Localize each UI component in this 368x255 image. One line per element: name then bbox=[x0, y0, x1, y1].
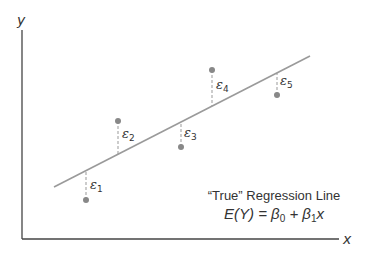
epsilon-label: ε5 bbox=[280, 73, 293, 90]
data-point-2: ε2 bbox=[115, 118, 135, 154]
observation-dot bbox=[274, 92, 280, 98]
beta1: β bbox=[301, 205, 311, 222]
epsilon-label: ε1 bbox=[90, 177, 103, 194]
y-axis-label: y bbox=[16, 12, 26, 28]
beta0: β bbox=[270, 205, 280, 222]
observation-dot bbox=[178, 144, 184, 150]
data-point-1: ε1 bbox=[83, 171, 103, 203]
data-point-4: ε4 bbox=[209, 67, 229, 106]
epsilon-label: ε3 bbox=[184, 125, 197, 142]
regression-diagram: y x ε1ε2ε3ε4ε5 “True” Regression Line E(… bbox=[0, 0, 368, 255]
regression-formula: E(Y) = β0 + β1x bbox=[224, 205, 325, 224]
epsilon-label: ε4 bbox=[216, 77, 229, 94]
regression-line bbox=[54, 56, 310, 187]
formula-lhs: E(Y) = bbox=[224, 205, 271, 222]
x-axis-label: x bbox=[342, 231, 352, 247]
observation-dot bbox=[83, 197, 89, 203]
data-points: ε1ε2ε3ε4ε5 bbox=[83, 67, 293, 203]
formula-x: x bbox=[316, 205, 325, 222]
observation-dot bbox=[115, 118, 121, 124]
data-point-5: ε5 bbox=[274, 73, 293, 98]
data-point-3: ε3 bbox=[178, 122, 197, 150]
epsilon-label: ε2 bbox=[122, 126, 135, 143]
regression-line-title: “True” Regression Line bbox=[208, 188, 340, 203]
plus-sign: + bbox=[285, 205, 302, 222]
observation-dot bbox=[209, 67, 215, 73]
